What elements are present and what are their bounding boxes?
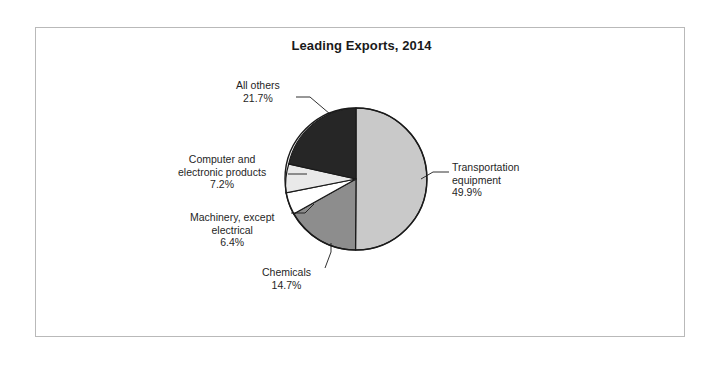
pie-label-machinery-except-electrical: Machinery, except electrical 6.4% [190, 211, 274, 249]
pie-label-transportation-name-line2: equipment [452, 174, 519, 187]
pie-label-all-others-value: 21.7% [236, 92, 280, 105]
leader-line-chemicals [325, 243, 331, 268]
pie-label-chemicals: Chemicals 14.7% [262, 266, 311, 291]
pie-svg [0, 0, 723, 365]
pie-label-all-others: All others 21.7% [236, 79, 280, 104]
pie-label-machinery-name-line2: electrical [190, 224, 274, 237]
pie-label-computer-name-line1: Computer and [178, 153, 266, 166]
pie-label-transportation-value: 49.9% [452, 186, 519, 199]
pie-label-computer-name-line2: electronic products [178, 166, 266, 179]
pie-label-computer-and-electronic-products: Computer and electronic products 7.2% [178, 153, 266, 191]
pie-label-chemicals-value: 14.7% [262, 279, 311, 292]
pie-label-machinery-value: 6.4% [190, 236, 274, 249]
pie-label-machinery-name-line1: Machinery, except [190, 211, 274, 224]
pie-slice-transportation-equipment[interactable] [356, 108, 427, 250]
leader-line-all-others [296, 97, 330, 114]
pie-label-computer-value: 7.2% [178, 178, 266, 191]
pie-chart: All others 21.7% Computer and electronic… [0, 0, 723, 365]
pie-label-transportation-name-line1: Transportation [452, 161, 519, 174]
pie-label-all-others-name: All others [236, 79, 280, 92]
chart-figure: Leading Exports, 2014 All others [0, 0, 723, 365]
pie-label-chemicals-name: Chemicals [262, 266, 311, 279]
pie-label-transportation-equipment: Transportation equipment 49.9% [452, 161, 519, 199]
